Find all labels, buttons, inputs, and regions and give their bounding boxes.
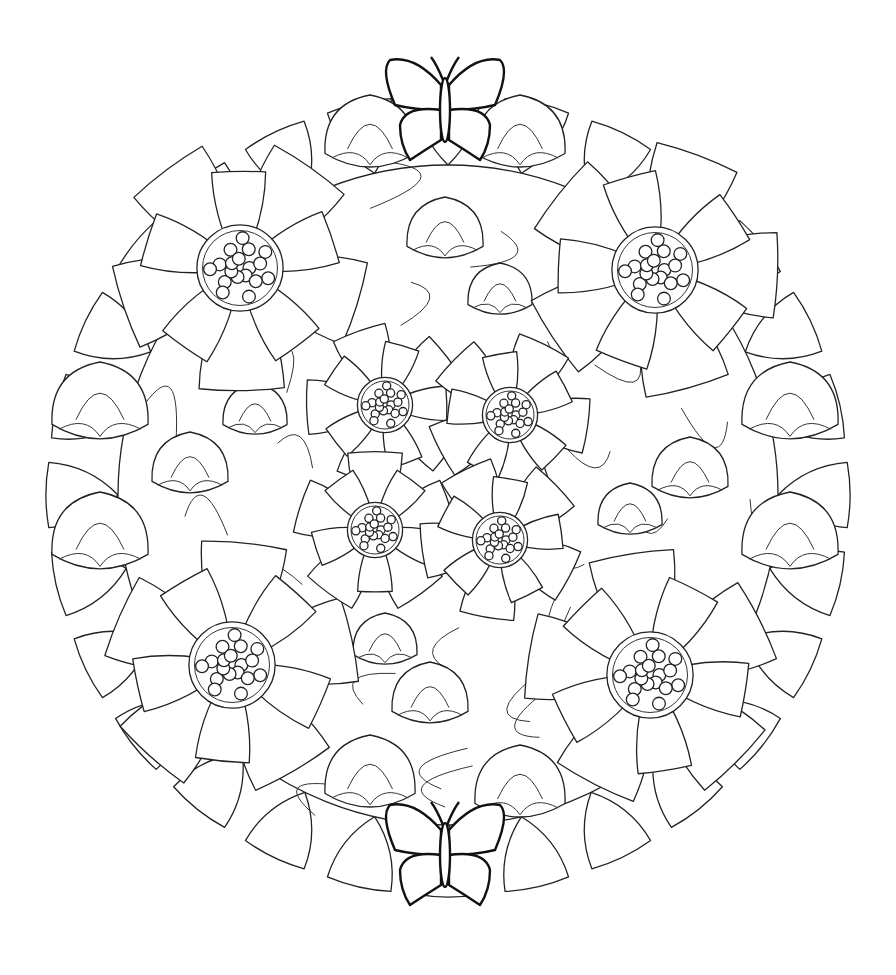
stamen	[381, 534, 389, 542]
outer-petal	[504, 817, 569, 892]
stamen	[243, 290, 256, 303]
stamen	[495, 427, 503, 435]
outer-petal	[584, 792, 650, 868]
stamen	[487, 412, 495, 420]
stamen	[614, 670, 627, 683]
stamen	[653, 697, 666, 710]
stamen	[389, 533, 397, 541]
floral-mandala-illustration	[0, 0, 896, 975]
stamen	[377, 544, 385, 552]
stamen	[242, 243, 255, 256]
stamen	[512, 429, 520, 437]
stamen	[674, 248, 687, 261]
stamen	[208, 683, 221, 696]
stamen	[262, 272, 275, 285]
stamen	[669, 259, 682, 272]
stamen	[246, 654, 259, 667]
stamen	[399, 408, 407, 416]
stamen	[196, 660, 209, 673]
stamen	[677, 274, 690, 287]
stamen	[362, 402, 370, 410]
butterfly-body	[440, 823, 450, 887]
stamen	[352, 527, 360, 535]
coloring-page-canvas	[0, 0, 896, 975]
bud	[52, 362, 148, 439]
stamen	[495, 530, 503, 538]
stamen	[509, 533, 517, 541]
stamen	[631, 288, 644, 301]
stamen	[259, 246, 272, 259]
stamen	[516, 419, 524, 427]
stamen	[524, 418, 532, 426]
stamen	[664, 277, 677, 290]
stamen	[659, 682, 672, 695]
stamen	[394, 398, 402, 406]
stamen	[249, 275, 262, 288]
stamen	[254, 669, 267, 682]
stamen	[505, 405, 513, 413]
lower-left-wing	[400, 109, 441, 160]
stamen	[664, 664, 677, 677]
upper-left-wing	[386, 59, 441, 110]
stamen	[235, 687, 248, 700]
outer-petal	[245, 792, 311, 868]
bud	[742, 362, 838, 439]
stamen	[647, 254, 660, 267]
stamen	[232, 252, 245, 265]
stamen	[360, 542, 368, 550]
lower-left-wing	[400, 854, 441, 905]
stamen	[514, 543, 522, 551]
outer-petal	[327, 817, 392, 892]
stamen	[391, 409, 399, 417]
stamen	[370, 417, 378, 425]
stamen	[380, 395, 388, 403]
stamen	[502, 554, 510, 562]
stamen	[669, 653, 682, 666]
stamen	[216, 286, 229, 299]
stamen	[642, 659, 655, 672]
stamen	[224, 649, 237, 662]
stamen	[234, 640, 247, 653]
stamen	[251, 643, 264, 656]
stamen	[619, 265, 632, 278]
stamen	[626, 693, 639, 706]
stamen	[657, 245, 670, 258]
stamen	[506, 544, 514, 552]
stamen	[485, 552, 493, 560]
stamen	[370, 520, 378, 528]
stamen	[384, 523, 392, 531]
stamen	[477, 537, 485, 545]
upper-right-wing	[449, 59, 504, 110]
stamen	[658, 292, 671, 305]
stamen	[519, 408, 527, 416]
stamen	[387, 419, 395, 427]
stamen	[241, 672, 254, 685]
stamen	[652, 650, 665, 663]
stamen	[254, 257, 267, 270]
stamen	[672, 679, 685, 692]
butterfly-body	[440, 78, 450, 142]
stamen	[204, 263, 217, 276]
